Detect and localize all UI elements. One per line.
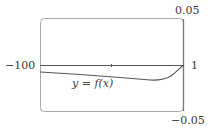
x-min-label: −100 (5, 60, 35, 71)
x-max-label: 1 (191, 60, 198, 71)
curve-label: y = f(x) (72, 78, 113, 89)
y-max-label: 0.05 (175, 5, 200, 16)
y-min-label: −0.05 (171, 115, 205, 126)
